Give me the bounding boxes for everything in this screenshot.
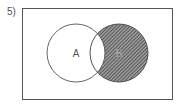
set-b-label: B xyxy=(116,48,123,59)
set-b-shaded-region xyxy=(47,24,148,82)
venn-diagram: A B xyxy=(0,0,181,104)
set-a-label: A xyxy=(73,48,80,59)
